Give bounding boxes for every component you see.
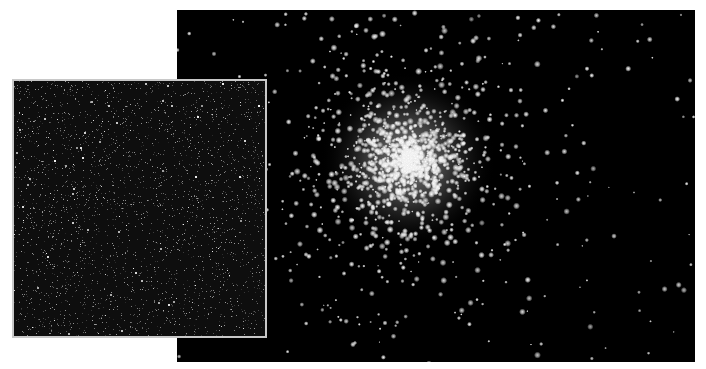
inset-canvas [14, 81, 265, 336]
inset-starfield-image [12, 79, 267, 338]
